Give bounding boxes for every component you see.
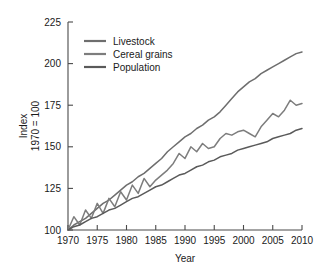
x-tick-label-2005: 2005 [262,235,285,246]
x-axis: 197019751980198519901995200020052010 Yea… [57,225,314,264]
x-tick-label-1995: 1995 [203,235,226,246]
line-chart: 100125150175200225 Index 1970 = 100 1970… [0,0,324,270]
legend-label-cereal-grains: Cereal grains [113,49,172,60]
y-tick-labels: 100125150175200225 [44,17,61,236]
x-tick-label-1975: 1975 [86,235,109,246]
y-axis-title-line1: Index [18,114,29,138]
y-axis: 100125150175200225 Index 1970 = 100 [18,17,73,236]
y-tick-label-100: 100 [44,225,61,236]
y-axis-title-line2: 1970 = 100 [30,100,41,151]
x-tick-marks [68,225,302,230]
x-tick-label-2000: 2000 [232,235,255,246]
x-tick-label-2010: 2010 [291,235,314,246]
y-tick-label-200: 200 [44,58,61,69]
x-tick-label-1980: 1980 [115,235,138,246]
y-tick-marks [68,22,73,230]
series-lines [68,52,302,230]
y-tick-label-150: 150 [44,141,61,152]
series-line-population [68,129,302,231]
legend-label-population: Population [113,62,160,73]
x-tick-label-1985: 1985 [145,235,168,246]
chart-figure: 100125150175200225 Index 1970 = 100 1970… [0,0,324,270]
x-tick-label-1990: 1990 [174,235,197,246]
legend-label-livestock: Livestock [113,36,156,47]
y-tick-label-225: 225 [44,17,61,28]
x-tick-labels: 197019751980198519901995200020052010 [57,235,314,246]
chart-legend: LivestockCereal grainsPopulation [84,36,172,73]
series-line-cereal-grains [68,100,302,230]
x-tick-label-1970: 1970 [57,235,80,246]
y-tick-label-125: 125 [44,183,61,194]
x-axis-title: Year [175,253,196,264]
y-tick-label-175: 175 [44,100,61,111]
